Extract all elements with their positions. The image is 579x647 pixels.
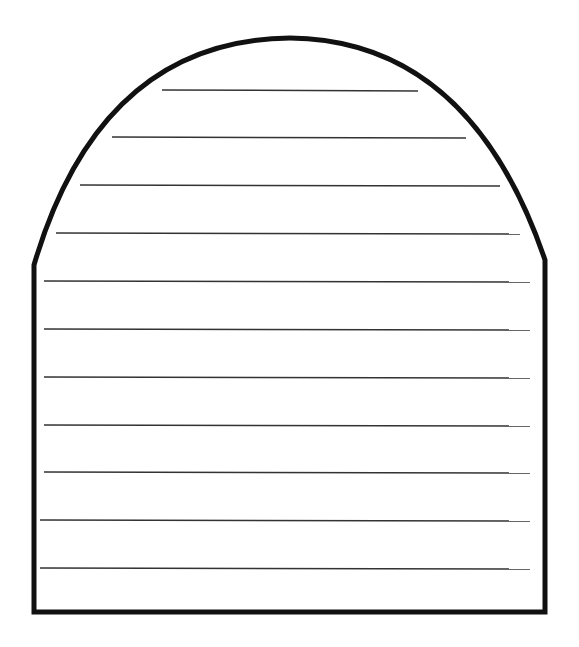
writing-line xyxy=(162,90,418,91)
arch-outline xyxy=(34,38,545,612)
writing-line xyxy=(44,281,530,282)
writing-line xyxy=(44,329,530,330)
writing-line xyxy=(56,233,520,234)
writing-line xyxy=(40,568,530,569)
writing-line xyxy=(44,425,530,426)
writing-line xyxy=(44,377,530,378)
writing-line xyxy=(40,520,530,521)
writing-line xyxy=(80,185,500,186)
writing-line xyxy=(112,137,466,138)
writing-line xyxy=(44,472,530,473)
arch-lined-paper xyxy=(0,0,579,647)
